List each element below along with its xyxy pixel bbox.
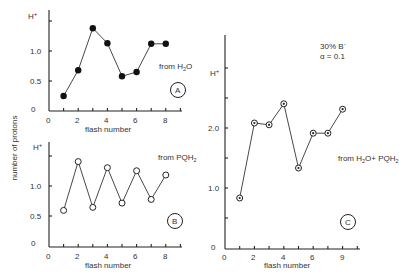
panel-c-source: from H2O+ PQH2 [338, 154, 399, 164]
panel-a-xtick: 6 [133, 116, 138, 125]
data-point [60, 93, 66, 99]
panel-b-badge: B [172, 217, 177, 226]
panel-a-xtick: 0 [46, 116, 51, 125]
data-point [61, 207, 67, 213]
panel-a-xtick: 4 [104, 116, 109, 125]
panel-c: H+ 0 1.0 2.0 0 2 4 6 9 flash number 30% … [208, 35, 399, 270]
data-point [163, 41, 169, 47]
panel-a-ytick-10: 1.0 [30, 47, 42, 56]
panel-b-xtick: 8 [163, 252, 168, 261]
panel-b-ytick-0: 0 [31, 239, 36, 248]
data-point [163, 172, 169, 178]
data-point [104, 40, 110, 46]
panel-c-xtick: 6 [310, 253, 315, 262]
data-point [119, 200, 125, 206]
data-point [90, 204, 96, 210]
panel-c-ytick-0: 0 [211, 243, 216, 252]
panel-c-annotation-2: α = 0.1 [320, 52, 345, 61]
panel-b-source: from PQH2 [158, 153, 197, 163]
data-point [148, 41, 154, 47]
panel-a-source: from H2O [159, 62, 192, 72]
panel-c-xlabel: flash number [264, 261, 311, 270]
figure-canvas: number of protons H+ 0 0.5 1.0 0 2 4 6 8… [0, 0, 399, 276]
data-point [119, 73, 125, 79]
panel-c-xtick: 0 [222, 253, 227, 262]
data-point [75, 67, 81, 73]
y-axis-label: number of protons [10, 116, 19, 181]
panel-b-xtick: 0 [46, 252, 51, 261]
panel-a: H+ 0 0.5 1.0 0 2 4 6 8 flash number from… [28, 10, 192, 134]
panel-b-xtick: 4 [104, 252, 109, 261]
panel-b: H+ 0 0.5 1.0 0 2 4 6 8 flash number from… [30, 142, 197, 270]
data-point [148, 196, 154, 202]
data-point [133, 69, 139, 75]
panel-a-xtick: 8 [163, 116, 168, 125]
panel-a-ytick-0: 0 [31, 105, 36, 114]
panel-b-xtick: 6 [133, 252, 138, 261]
panel-c-badge: C [345, 218, 351, 227]
panel-c-ytick-10: 1.0 [208, 184, 220, 193]
panel-c-xtick: 2 [251, 253, 256, 262]
panel-b-xtick: 2 [75, 252, 80, 261]
panel-a-badge: A [175, 86, 181, 95]
panel-b-ytick-05: 0.5 [30, 212, 42, 221]
panel-a-unit: H+ [28, 11, 38, 21]
panel-a-xlabel: flash number [85, 125, 132, 134]
panel-b-xlabel: flash number [85, 261, 132, 270]
panel-a-ytick-05: 0.5 [30, 77, 42, 86]
panel-b-ytick-10: 1.0 [30, 182, 42, 191]
panel-a-xtick: 2 [75, 116, 80, 125]
data-point [75, 159, 81, 165]
data-point [134, 168, 140, 174]
data-point [90, 25, 96, 31]
panel-c-xtick: 9 [340, 253, 345, 262]
panel-b-unit: H+ [33, 142, 43, 152]
panel-c-ytick-20: 2.0 [208, 124, 220, 133]
panel-c-unit: H+ [210, 68, 220, 78]
panel-c-annotation-1: 30% B- [320, 41, 346, 51]
data-point [104, 165, 110, 171]
